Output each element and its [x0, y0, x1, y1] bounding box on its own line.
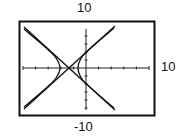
y-axis: [85, 29, 88, 110]
graph-screen: [0, 0, 181, 137]
